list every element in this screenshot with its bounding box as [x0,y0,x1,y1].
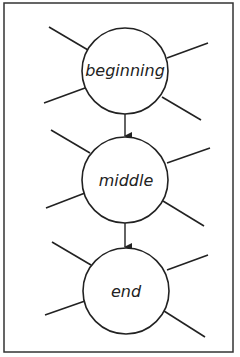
diagram-canvas: beginning middle end [0,0,240,357]
spoke [45,301,85,315]
node-beginning: beginning [44,27,208,120]
spoke [162,97,201,120]
node-middle: middle [46,130,210,226]
spoke [163,201,204,226]
spoke [167,43,208,58]
spoke [46,193,85,208]
node-label: end [111,282,142,301]
spoke [52,242,91,265]
spoke [164,311,205,337]
node-label: beginning [85,61,165,80]
spoke [44,88,85,103]
spoke [51,130,90,153]
node-label: middle [99,171,154,190]
spoke [167,148,210,163]
spoke [49,27,88,50]
spoke [167,255,208,270]
node-end: end [45,242,208,337]
